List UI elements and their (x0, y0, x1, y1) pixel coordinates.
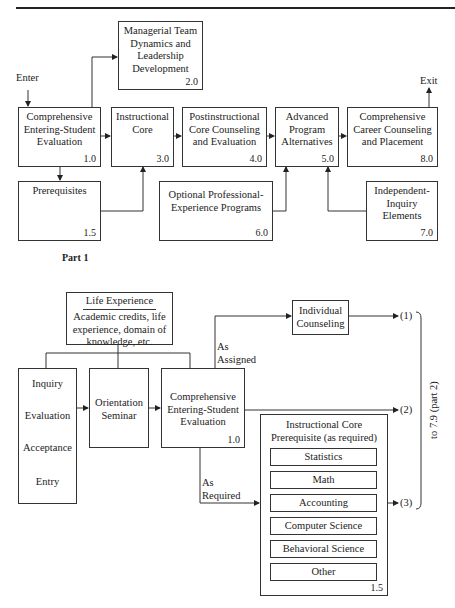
box-title: Optional Professional-Experience Program… (160, 189, 272, 214)
box-1-5: Prerequisites 1.5 (18, 181, 101, 241)
box-6-0: Optional Professional-Experience Program… (159, 181, 273, 241)
prereq-item-computer-science: Computer Science (270, 517, 377, 535)
box-title: Independent-Inquiry Elements (367, 185, 437, 223)
box-title: Individual Counseling (293, 305, 348, 330)
output-3: (3) (400, 497, 412, 510)
prereq-item-statistics: Statistics (270, 448, 377, 466)
box-title: Comprehensive Career Counseling and Plac… (348, 111, 437, 149)
step-acceptance: Acceptance (19, 442, 76, 455)
as-required-label: As Required (202, 477, 242, 502)
exit-label: Exit (420, 75, 438, 88)
evaluation-box-1-0: Comprehensive Entering-Student Evaluatio… (161, 368, 245, 448)
life-experience-body: Academic credits, life experience, domai… (69, 311, 170, 349)
box-7-0: Independent-Inquiry Elements 7.0 (366, 181, 438, 241)
prereq-item-other: Other (270, 563, 377, 581)
step-inquiry: Inquiry (19, 378, 76, 391)
box-title: Instructional Core Prerequisite (as requ… (261, 419, 387, 444)
box-number: 3.0 (157, 153, 170, 164)
box-number: 1.5 (84, 227, 97, 238)
step-entry: Entry (19, 476, 76, 489)
box-2-0: Managerial Team Dynamics and Leadership … (118, 21, 203, 90)
box-3-0: Instructional Core 3.0 (111, 107, 174, 167)
step-evaluation: Evaluation (19, 410, 76, 423)
box-title: Prerequisites (19, 185, 100, 198)
life-experience-heading: Life Experience (83, 295, 156, 310)
box-number: 2.0 (186, 76, 199, 87)
output-2: (2) (400, 404, 412, 417)
output-1: (1) (400, 310, 412, 323)
box-number: 4.0 (250, 153, 263, 164)
box-number: 5.0 (322, 153, 335, 164)
box-title: Managerial Team Dynamics and Leadership … (119, 25, 202, 75)
as-assigned-label: As Assigned (217, 341, 257, 366)
box-number: 1.5 (371, 582, 384, 593)
box-4-0: Postinstructional Core Counseling and Ev… (182, 107, 267, 167)
box-1-0: Comprehensive Entering-Student Evaluatio… (18, 107, 101, 167)
box-title: Comprehensive Entering-Student Evaluatio… (162, 391, 244, 429)
box-number: 8.0 (421, 153, 434, 164)
box-5-0: Advanced Program Alternatives 5.0 (275, 107, 339, 167)
box-title: Postinstructional Core Counseling and Ev… (183, 111, 266, 149)
box-title: Advanced Program Alternatives (276, 111, 338, 149)
individual-counseling-box: Individual Counseling (292, 300, 349, 335)
box-number: 1.0 (228, 434, 241, 445)
life-experience-box: Life Experience Academic credits, life e… (66, 292, 173, 345)
bracket-label: to 7.9 (part 2) (428, 381, 439, 439)
prereq-item-behavioral-science: Behavioral Science (270, 540, 377, 558)
enter-label: Enter (16, 72, 39, 85)
box-number: 6.0 (256, 227, 269, 238)
box-title: Orientation Seminar (90, 397, 148, 422)
prereq-item-math: Math (270, 471, 377, 489)
prereq-item-accounting: Accounting (270, 494, 377, 512)
box-title: Instructional Core (112, 111, 173, 136)
box-number: 1.0 (84, 153, 97, 164)
admission-steps-box: Inquiry Evaluation Acceptance Entry (18, 368, 77, 504)
box-title: Comprehensive Entering-Student Evaluatio… (19, 111, 100, 149)
orientation-seminar-box: Orientation Seminar (89, 368, 149, 448)
part-1-caption: Part 1 (62, 252, 88, 263)
box-number: 7.0 (421, 227, 434, 238)
box-8-0: Comprehensive Career Counseling and Plac… (347, 107, 438, 167)
